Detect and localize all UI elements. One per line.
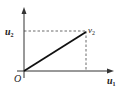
y-axis-arrow-icon xyxy=(22,7,27,14)
vector-segment xyxy=(24,32,86,71)
x-axis-label: u1 xyxy=(107,75,116,87)
point-label: v2 xyxy=(88,25,95,36)
origin-label: O xyxy=(14,73,21,84)
diagram-canvas: u2 v2 u1 O xyxy=(0,0,124,94)
y-axis-label: u2 xyxy=(5,26,14,38)
x-axis-arrow-icon xyxy=(107,69,114,74)
